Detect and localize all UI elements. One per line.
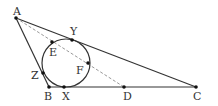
point-b: [47, 85, 51, 89]
label-e: E: [49, 46, 57, 59]
point-e: [50, 40, 54, 44]
label-x: X: [62, 90, 70, 103]
point-c: [194, 85, 198, 89]
label-b: B: [44, 90, 52, 103]
point-z: [41, 71, 45, 75]
point-y: [70, 38, 74, 42]
point-x: [62, 85, 66, 89]
label-d: D: [123, 90, 132, 103]
label-a: A: [12, 5, 22, 18]
label-y: Y: [69, 25, 78, 38]
label-z: Z: [31, 69, 39, 82]
label-f: F: [76, 64, 84, 77]
label-c: C: [193, 90, 201, 103]
geometry-diagram: A B C D X Y Z E F: [0, 0, 218, 106]
point-d: [122, 85, 126, 89]
diagram-svg: A B C D X Y Z E F: [0, 0, 218, 106]
point-f: [86, 61, 90, 65]
side-ca: [16, 18, 196, 87]
